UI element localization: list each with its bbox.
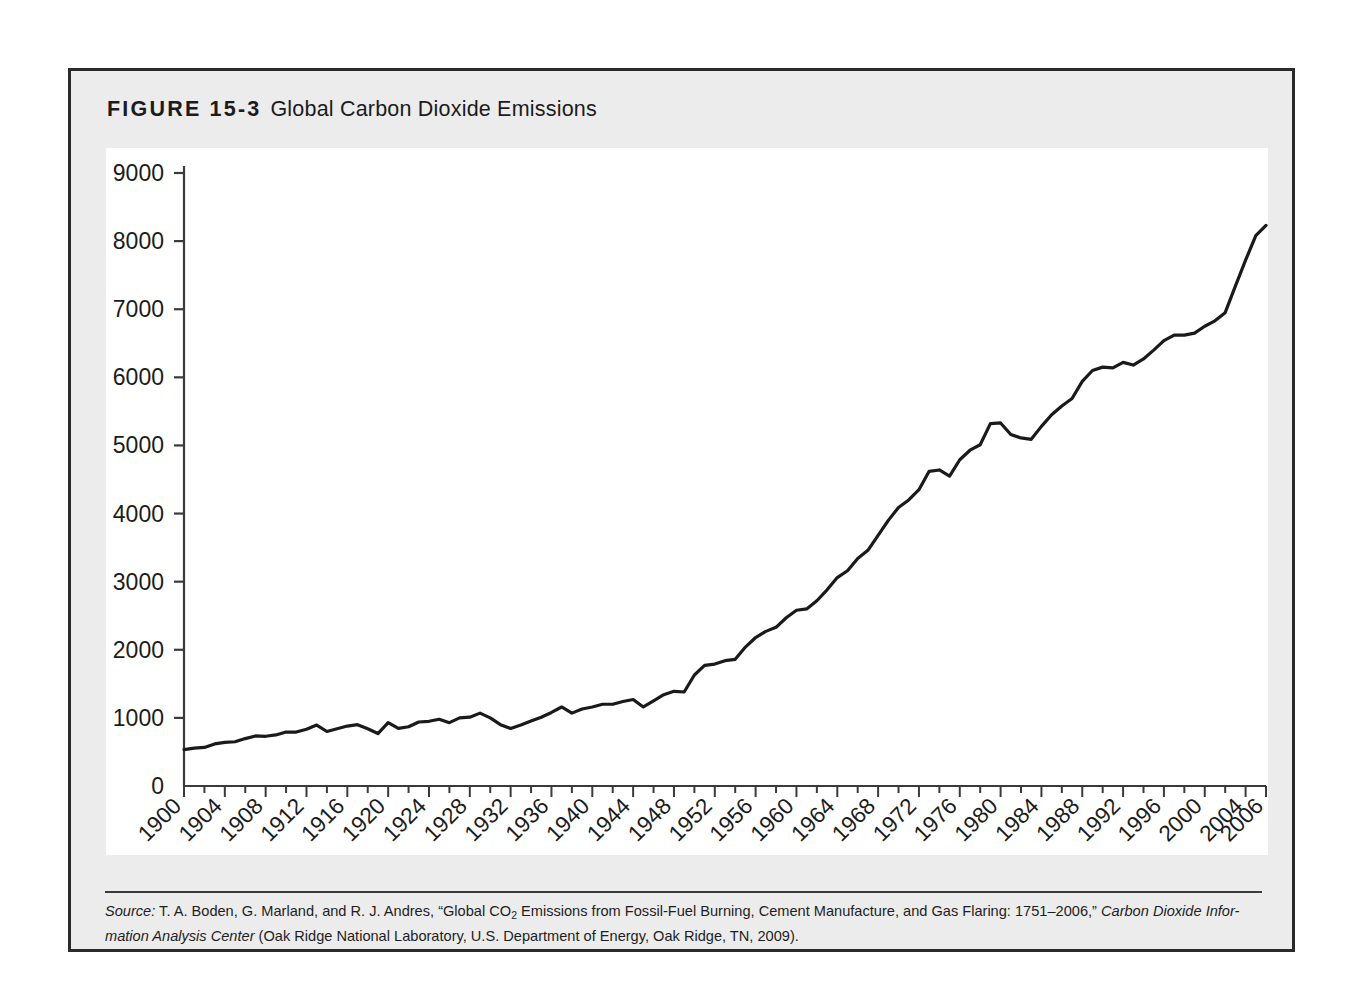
- source-line-2: mation Analysis Center (Oak Ridge Nation…: [105, 926, 1265, 947]
- x-tick-label: 1976: [909, 793, 962, 846]
- y-tick-label: 2000: [113, 637, 164, 663]
- y-tick-label: 8000: [113, 228, 164, 254]
- figure-page: FIGURE 15-3Global Carbon Dioxide Emissio…: [0, 0, 1359, 988]
- chart-panel: 0100020003000400050006000700080009000190…: [106, 148, 1268, 855]
- x-tick-label: 1920: [337, 793, 390, 846]
- y-tick-label: 9000: [113, 160, 164, 186]
- source-divider: [105, 891, 1262, 893]
- x-tick-label: 1932: [460, 793, 513, 846]
- x-tick-label: 1900: [133, 793, 186, 846]
- source-publication-b: mation Analysis Center: [105, 928, 255, 944]
- x-tick-label: 1912: [256, 793, 309, 846]
- source-label: Source:: [105, 903, 155, 919]
- x-tick-label: 1944: [582, 793, 635, 846]
- source-text-a: T. A. Boden, G. Marland, and R. J. Andre…: [155, 903, 511, 919]
- emissions-series-line: [184, 225, 1266, 749]
- x-tick-label: 2000: [1154, 793, 1207, 846]
- x-tick-label: 1984: [990, 793, 1043, 846]
- source-publication-a: Carbon Dioxide Infor-: [1101, 903, 1239, 919]
- y-tick-label: 1000: [113, 705, 164, 731]
- y-tick-label: 6000: [113, 364, 164, 390]
- y-tick-label: 0: [151, 773, 164, 799]
- x-tick-label: 1996: [1113, 793, 1166, 846]
- y-tick-label: 3000: [113, 569, 164, 595]
- x-tick-label: 1952: [664, 793, 717, 846]
- figure-title-text: Global Carbon Dioxide Emissions: [270, 97, 596, 121]
- x-tick-label: 1924: [378, 793, 431, 846]
- x-tick-label: 1992: [1072, 793, 1125, 846]
- x-tick-label: 1916: [296, 793, 349, 846]
- source-text-c: (Oak Ridge National Laboratory, U.S. Dep…: [255, 928, 799, 944]
- x-tick-label: 1988: [1031, 793, 1084, 846]
- x-tick-label: 1948: [623, 793, 676, 846]
- x-tick-label: 1980: [950, 793, 1003, 846]
- x-tick-label: 1904: [174, 793, 227, 846]
- y-tick-label: 5000: [113, 432, 164, 458]
- x-tick-label: 1960: [745, 793, 798, 846]
- x-tick-label: 1936: [501, 793, 554, 846]
- x-tick-label: 1968: [827, 793, 880, 846]
- source-text-b: Emissions from Fossil-Fuel Burning, Ceme…: [517, 903, 1101, 919]
- x-tick-label: 1964: [786, 793, 839, 846]
- x-tick-label: 1908: [215, 793, 268, 846]
- x-tick-label: 1972: [868, 793, 921, 846]
- y-tick-label: 7000: [113, 296, 164, 322]
- x-tick-label: 1940: [541, 793, 594, 846]
- figure-frame: FIGURE 15-3Global Carbon Dioxide Emissio…: [68, 68, 1295, 952]
- page-title: FIGURE 15-3Global Carbon Dioxide Emissio…: [107, 97, 597, 122]
- x-tick-label: 1928: [419, 793, 472, 846]
- y-tick-label: 4000: [113, 501, 164, 527]
- figure-number: FIGURE 15-3: [107, 97, 261, 121]
- line-chart: 0100020003000400050006000700080009000190…: [106, 148, 1268, 855]
- source-note: Source: T. A. Boden, G. Marland, and R. …: [105, 901, 1265, 947]
- source-line-1: Source: T. A. Boden, G. Marland, and R. …: [105, 901, 1265, 926]
- x-tick-label: 1956: [705, 793, 758, 846]
